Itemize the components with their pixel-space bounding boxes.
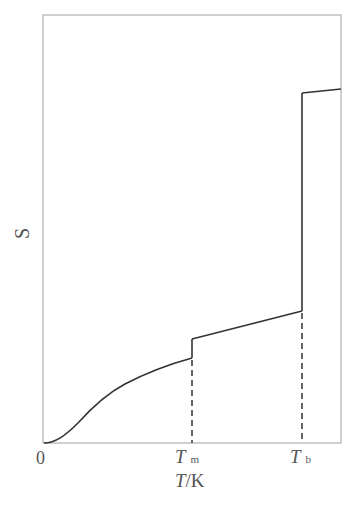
solid-phase-curve [44,358,192,443]
gas-phase-line [302,89,341,93]
x-axis-unit: /K [186,470,205,491]
tick-tb-main: T [290,446,301,467]
x-axis-var: T [175,470,186,491]
liquid-phase-line [192,311,302,339]
plot-frame [43,15,341,443]
tick-tb-sub: b [306,453,312,465]
tick-tm-sub: m [191,453,200,465]
x-tick-tm: Tm [175,446,199,468]
x-tick-zero: 0 [36,448,45,469]
x-axis-label: T/K [175,470,205,492]
tick-tm-main: T [175,446,186,467]
x-tick-tb: Tb [290,446,311,468]
entropy-temperature-plot [0,0,356,509]
y-axis-label: S [11,228,34,239]
